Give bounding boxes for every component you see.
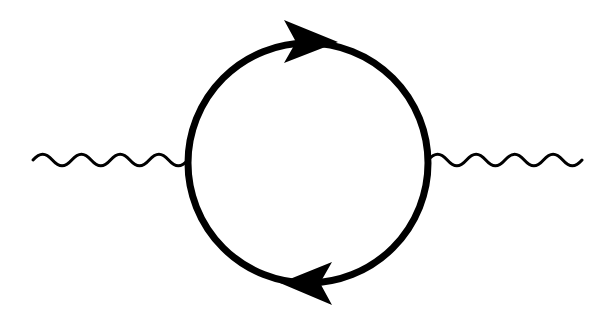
right-photon-propagator bbox=[428, 154, 582, 166]
left-photon-propagator bbox=[33, 154, 188, 166]
diagram-canvas bbox=[0, 0, 610, 322]
fermion-loop bbox=[188, 43, 428, 283]
